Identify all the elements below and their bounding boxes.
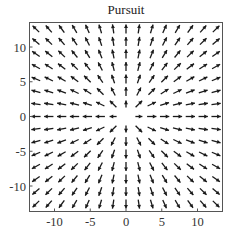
y-tick-label: 10	[14, 41, 27, 55]
y-tick-label: 5	[20, 75, 26, 89]
arrowhead-icon	[124, 142, 128, 146]
arrowhead-icon	[57, 115, 61, 119]
arrowhead-icon	[166, 115, 170, 119]
arrowhead-icon	[96, 115, 100, 119]
chart-title: Pursuit	[108, 2, 145, 17]
arrowhead-icon	[204, 115, 208, 119]
y-tick-label: -10	[9, 180, 26, 194]
arrowhead-icon	[124, 205, 128, 209]
x-tick-label: 10	[191, 215, 204, 229]
arrowhead-icon	[70, 115, 74, 119]
quiver-plot: Pursuit -10-50510 -10-50510	[0, 0, 237, 238]
arrowhead-icon	[124, 167, 128, 171]
arrowhead-icon	[179, 115, 183, 119]
arrowhead-icon	[124, 192, 128, 196]
arrowhead-icon	[124, 49, 128, 53]
arrowhead-icon	[191, 115, 195, 119]
x-tick-label: -5	[85, 215, 95, 229]
arrowhead-icon	[124, 24, 128, 28]
vector-field-arrows	[31, 24, 220, 208]
arrowhead-icon	[124, 155, 128, 159]
arrowhead-icon	[217, 115, 221, 119]
arrowhead-icon	[83, 115, 87, 119]
arrowhead-icon	[124, 62, 128, 66]
arrowhead-icon	[124, 74, 128, 78]
arrowhead-icon	[124, 101, 128, 105]
arrowhead-icon	[124, 180, 128, 184]
arrowhead-icon	[124, 87, 128, 91]
x-tick-label: 0	[123, 215, 129, 229]
arrowhead-icon	[124, 129, 128, 133]
x-tick-label: 5	[159, 215, 165, 229]
arrowhead-icon	[139, 115, 143, 119]
arrowhead-icon	[153, 115, 157, 119]
x-tick-label: -10	[46, 215, 63, 229]
arrowhead-icon	[124, 37, 128, 41]
y-tick-label: -5	[16, 145, 26, 159]
y-tick-label: 0	[20, 110, 26, 124]
arrowhead-icon	[110, 115, 114, 119]
arrowhead-icon	[44, 115, 48, 119]
